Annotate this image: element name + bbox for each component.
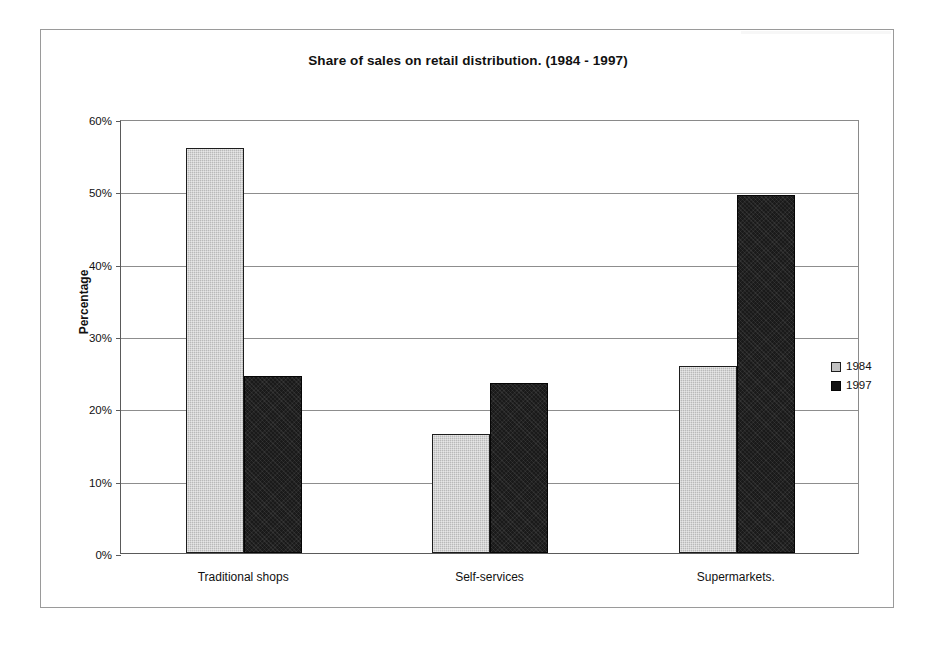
chart-title: Share of sales on retail distribution. (… [41,53,895,68]
x-axis-label-1: Traditional shops [133,570,353,584]
y-tick-label-40: 40% [89,260,112,272]
legend-swatch-1997-icon [831,381,841,391]
bar-1984-traditional-shops[interactable] [186,148,244,553]
y-tick-label-20: 20% [89,404,112,416]
legend-item-1984[interactable]: 1984 [831,357,872,376]
y-tick-label-0: 0% [95,549,112,561]
y-tick-label-10: 10% [89,477,112,489]
legend-item-1997[interactable]: 1997 [831,376,872,395]
bar-1984-supermarkets[interactable] [679,366,737,553]
x-axis-label-3: Supermarkets. [626,570,846,584]
chart-frame: Share of sales on retail distribution. (… [40,29,894,608]
y-tick-label-30: 30% [89,332,112,344]
y-tick-mark-0 [116,555,121,556]
bar-1984-self-services[interactable] [432,434,490,553]
x-axis-label-2: Self-services [380,570,600,584]
legend-swatch-1984-icon [831,362,841,372]
bar-group-3 [614,121,860,553]
bars-layer [121,121,858,553]
scan-artifact [741,31,891,34]
bar-1997-supermarkets[interactable] [737,195,795,553]
y-tick-label-50: 50% [89,187,112,199]
legend-label-1984: 1984 [846,357,872,376]
bar-1997-self-services[interactable] [490,383,548,553]
bar-1997-traditional-shops[interactable] [244,376,302,553]
chart-legend: 19841997 [831,357,872,395]
legend-label-1997: 1997 [846,376,872,395]
plot-area: 0%10%20%30%40%50%60% [120,120,859,554]
y-tick-label-60: 60% [89,115,112,127]
bar-group-2 [367,121,613,553]
bar-group-1 [121,121,367,553]
